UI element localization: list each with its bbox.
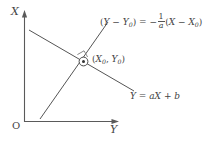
horizontal-axis-label: Y	[110, 124, 117, 135]
perpendicular-equation-label: (Y − Y0) = −1a(X − X0)	[100, 13, 202, 30]
line-eq-equals: =	[136, 91, 149, 101]
vertical-axis	[22, 10, 27, 122]
pt-y: Y	[112, 54, 118, 64]
perp-eq-lhs-y0-sub: 0	[129, 21, 133, 28]
perp-eq-lhs-y0: Y	[123, 17, 129, 27]
pt-close: )	[122, 54, 126, 64]
perp-eq-minus-sign: −	[149, 17, 157, 27]
perp-eq-fraction-numerator: 1	[158, 13, 165, 21]
perp-eq-rhs-minus: −	[175, 17, 188, 27]
perp-eq-equals: =	[136, 17, 149, 27]
origin-label: O	[12, 121, 20, 131]
horizontal-axis	[25, 119, 120, 124]
perp-eq-lhs-minus: −	[109, 17, 122, 27]
perp-eq-rhs-close: )	[199, 17, 203, 27]
pt-x: X	[96, 54, 102, 64]
line-eq-plus: +	[161, 91, 174, 101]
perp-eq-fraction: 1a	[158, 13, 165, 30]
point-marker-dot	[82, 60, 85, 63]
perp-eq-rhs-x0-sub: 0	[195, 21, 199, 28]
line-eq-b: b	[174, 91, 180, 101]
perp-eq-fraction-denominator: a	[158, 22, 165, 30]
intersection-point-label: (X0, Y0)	[92, 55, 125, 64]
point-marker	[79, 57, 88, 66]
pt-x-sub: 0	[102, 58, 106, 65]
right-angle-marker	[77, 51, 87, 57]
line-equation-label: Y = aX + b	[130, 92, 180, 101]
vertical-axis-arrowhead	[22, 10, 27, 18]
perp-eq-rhs-x0: X	[188, 17, 194, 27]
pt-y-sub: 0	[118, 58, 122, 65]
geometry-figure: X Y O (Y − Y0) = −1a(X − X0) Y = aX + b …	[0, 0, 207, 141]
vertical-axis-label: X	[11, 6, 19, 17]
